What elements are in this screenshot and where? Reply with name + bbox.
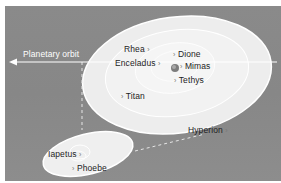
- diagram-panel: Planetary orbit Rhea › › Dione Enceladus…: [5, 6, 281, 181]
- marker-icon: ›: [79, 151, 81, 158]
- marker-icon: ›: [147, 46, 149, 53]
- moon-label-mimas: › Mimas: [180, 62, 210, 71]
- moon-label-rhea: Rhea ›: [124, 45, 150, 54]
- marker-icon: ›: [72, 165, 74, 172]
- marker-icon: ›: [173, 51, 175, 58]
- moon-label-iapetus: Iapetus ›: [48, 150, 82, 159]
- moon-label-dione: › Dione: [173, 50, 201, 59]
- marker-icon: ›: [180, 63, 182, 70]
- moon-label-tethys: › Tethys: [174, 76, 204, 85]
- marker-icon: ›: [174, 77, 176, 84]
- marker-icon: ›: [225, 127, 227, 134]
- planetary-orbit-label: Planetary orbit: [23, 50, 79, 59]
- moon-label-enceladus: Enceladus ›: [115, 59, 161, 68]
- moon-label-titan: › Titan: [121, 92, 145, 101]
- marker-icon: ›: [121, 93, 123, 100]
- moon-label-phoebe: › Phoebe: [72, 164, 107, 173]
- moon-label-hyperion: Hyperion ›: [188, 126, 228, 135]
- marker-icon: ›: [158, 60, 160, 67]
- saturn-icon: [171, 64, 179, 72]
